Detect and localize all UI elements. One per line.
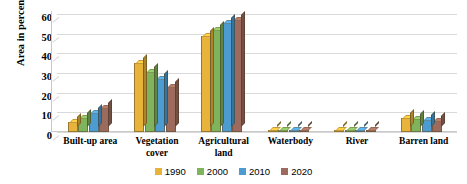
- legend-label: 2010: [249, 166, 270, 177]
- x-axis-label-line: Built-up area: [57, 136, 124, 148]
- legend-item-2010[interactable]: 2010: [239, 166, 270, 177]
- bar-front-face: [299, 130, 309, 132]
- bar: [68, 122, 78, 132]
- legend-item-1990[interactable]: 1990: [155, 166, 186, 177]
- bar-side-face: [231, 14, 235, 127]
- bar: [345, 130, 355, 132]
- x-axis-label-line: Vegetation: [124, 136, 191, 148]
- bar-front-face: [134, 63, 144, 132]
- bar-group: [257, 14, 324, 132]
- y-axis-line: [51, 11, 52, 132]
- bar-front-face: [278, 130, 288, 132]
- x-axis-label: River: [324, 136, 391, 148]
- bar-top-face: [367, 127, 379, 131]
- bar-side-face: [143, 54, 147, 127]
- bar-front-face: [401, 118, 411, 132]
- bar: [268, 130, 278, 132]
- bar-side-face: [108, 99, 112, 127]
- bar: [355, 130, 365, 132]
- bar: [289, 130, 299, 132]
- bar: [401, 118, 411, 132]
- bar-top-face: [300, 127, 312, 131]
- gridline-0: [57, 132, 457, 133]
- x-axis-labels: Built-up areaVegetationcoverAgricultural…: [57, 136, 457, 162]
- bar-side-face: [441, 112, 445, 127]
- bar: [334, 130, 344, 132]
- x-axis-label-line: Waterbody: [257, 136, 324, 148]
- legend-label: 2020: [291, 166, 312, 177]
- bar-front-face: [366, 130, 376, 132]
- bar-side-face: [154, 63, 158, 127]
- bar-group: [324, 14, 391, 132]
- x-axis-label: Waterbody: [257, 136, 324, 148]
- x-axis-label-line: River: [324, 136, 391, 148]
- legend-swatch-icon: [239, 168, 246, 175]
- bar-side-face: [210, 27, 214, 127]
- bar: [278, 130, 288, 132]
- bar: [299, 130, 309, 132]
- plot-area: 6050403020100: [57, 14, 457, 132]
- bar-front-face: [345, 130, 355, 132]
- bar-front-face: [334, 130, 344, 132]
- bar-chart: Area in percentage 6050403020100 Built-u…: [0, 0, 467, 184]
- x-axis-label-line: land: [190, 148, 257, 160]
- bar-groups: [57, 14, 457, 132]
- legend-label: 2000: [207, 166, 228, 177]
- legend-label: 1990: [165, 166, 186, 177]
- legend-swatch-icon: [197, 168, 204, 175]
- x-axis-label-line: cover: [124, 148, 191, 160]
- x-axis-label-line: Barren land: [390, 136, 457, 148]
- bar-front-face: [201, 36, 211, 132]
- x-axis-label: Built-up area: [57, 136, 124, 148]
- bar: [201, 36, 211, 132]
- x-axis-label: Barren land: [390, 136, 457, 148]
- x-axis-label-line: Agricultural: [190, 136, 257, 148]
- bar-front-face: [68, 122, 78, 132]
- bar: [366, 130, 376, 132]
- bar-group: [190, 14, 257, 132]
- legend-item-2020[interactable]: 2020: [281, 166, 312, 177]
- bar-front-face: [289, 130, 299, 132]
- legend-swatch-icon: [155, 168, 162, 175]
- bar-side-face: [164, 70, 168, 127]
- chart-legend: 1990200020102020: [0, 166, 467, 177]
- x-axis-label: Agriculturalland: [190, 136, 257, 159]
- legend-item-2000[interactable]: 2000: [197, 166, 228, 177]
- y-axis-title: Area in percentage: [15, 0, 26, 89]
- bar-front-face: [268, 130, 278, 132]
- bar-front-face: [355, 130, 365, 132]
- bar: [134, 63, 144, 132]
- legend-swatch-icon: [281, 168, 288, 175]
- bar-group: [124, 14, 191, 132]
- bar-side-face: [220, 21, 224, 127]
- x-axis-label: Vegetationcover: [124, 136, 191, 159]
- bar-side-face: [175, 78, 179, 127]
- bar-group: [390, 14, 457, 132]
- bar-group: [57, 14, 124, 132]
- bar-side-face: [98, 104, 102, 127]
- bar-side-face: [241, 11, 245, 127]
